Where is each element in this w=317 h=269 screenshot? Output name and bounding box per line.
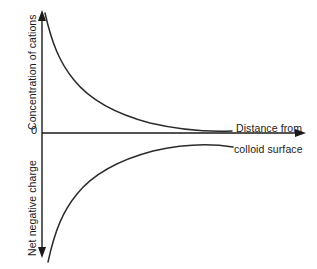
figure-canvas: [0, 0, 317, 269]
y-axis-up-arrow-icon: [38, 10, 46, 21]
x-axis-label-line-1: Distance from: [236, 123, 302, 134]
colloid-double-layer-figure: 0 Concentration of cations Net negative …: [0, 0, 317, 269]
y-axis-upper-label: Concentration of cations: [26, 14, 38, 130]
y-axis-lower-label: Net negative charge: [26, 160, 38, 256]
x-axis-label-line-2: colloid surface: [234, 144, 303, 155]
y-axis-down-arrow-icon: [38, 247, 46, 258]
net-negative-charge-curve: [48, 145, 233, 262]
cation-concentration-curve: [45, 13, 232, 131]
